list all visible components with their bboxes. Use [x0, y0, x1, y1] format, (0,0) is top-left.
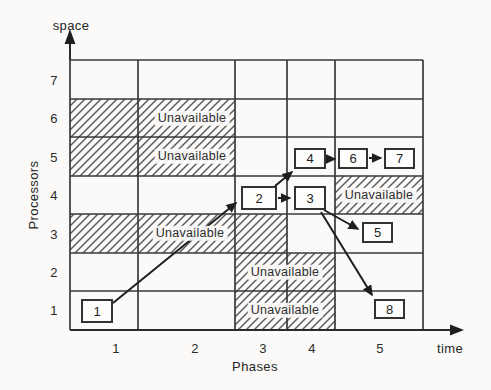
- y-tick-5: 5: [50, 151, 58, 164]
- y-tick-2: 2: [50, 266, 58, 279]
- y-tick-6: 6: [50, 112, 58, 125]
- y-tick-4: 4: [50, 189, 58, 202]
- y-axis-title: Processors: [27, 160, 40, 229]
- y-axis-arrow-label: space: [53, 19, 90, 32]
- x-tick-2: 2: [191, 342, 199, 355]
- y-tick-3: 3: [50, 228, 58, 241]
- unavailable-label-proc1: Unavailable: [248, 303, 323, 318]
- x-tick-5: 5: [376, 342, 384, 355]
- unavailable-label-proc4: Unavailable: [342, 188, 417, 203]
- unavailable-label-proc6: Unavailable: [155, 111, 230, 126]
- task-box-2: 2: [241, 186, 277, 210]
- task-box-6: 6: [338, 148, 368, 169]
- task-box-7: 7: [384, 148, 415, 169]
- unavailable-label-proc3: Unavailable: [153, 226, 228, 241]
- unavailable-label-proc5: Unavailable: [155, 149, 230, 164]
- y-tick-1: 1: [50, 304, 58, 317]
- schedule-diagram: space time Phases Processors 7 6 5 4 3 2…: [0, 0, 491, 390]
- task-box-5: 5: [362, 222, 393, 243]
- task-box-4: 4: [294, 148, 326, 169]
- task-box-3: 3: [294, 186, 326, 210]
- edge-arrow-2-4: [275, 172, 292, 186]
- unavailable-label-proc2: Unavailable: [248, 265, 323, 280]
- x-tick-4: 4: [308, 342, 316, 355]
- x-tick-3: 3: [259, 342, 267, 355]
- x-axis-arrowhead-icon: [450, 325, 464, 336]
- task-box-1: 1: [81, 299, 113, 323]
- x-tick-1: 1: [112, 342, 120, 355]
- task-box-8: 8: [374, 299, 405, 319]
- x-axis-title: Phases: [232, 360, 278, 373]
- x-axis-arrow-label: time: [437, 342, 463, 355]
- y-tick-7: 7: [50, 74, 58, 87]
